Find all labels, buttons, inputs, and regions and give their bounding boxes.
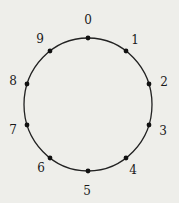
node-label-7: 7 bbox=[9, 123, 17, 137]
circle-ring bbox=[24, 38, 152, 171]
node-point-9 bbox=[48, 49, 53, 54]
node-label-9: 9 bbox=[36, 32, 44, 46]
node-label-6: 6 bbox=[37, 161, 45, 175]
nodes-group: 0123456789 bbox=[9, 13, 168, 198]
node-point-1 bbox=[124, 49, 129, 54]
node-point-5 bbox=[86, 169, 91, 174]
node-point-4 bbox=[124, 156, 129, 161]
node-point-7 bbox=[25, 123, 30, 128]
node-label-1: 1 bbox=[131, 33, 139, 47]
node-label-8: 8 bbox=[9, 74, 17, 88]
node-point-8 bbox=[25, 82, 30, 87]
node-label-5: 5 bbox=[83, 184, 91, 198]
node-point-2 bbox=[147, 82, 152, 87]
node-point-6 bbox=[48, 156, 53, 161]
node-label-4: 4 bbox=[129, 163, 137, 177]
node-label-3: 3 bbox=[159, 124, 167, 138]
node-label-0: 0 bbox=[84, 13, 92, 27]
node-point-3 bbox=[147, 123, 152, 128]
node-label-2: 2 bbox=[160, 75, 168, 89]
node-point-0 bbox=[86, 36, 91, 41]
circle-diagram: 0123456789 bbox=[0, 0, 179, 203]
